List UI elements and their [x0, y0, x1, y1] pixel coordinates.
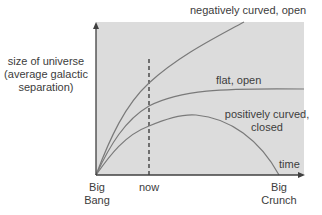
y-axis-label: size of universe (average galactic separ… [0, 55, 92, 94]
y-axis-label-line-1: size of universe [0, 55, 92, 68]
tick-big-crunch-line-2: Crunch [258, 194, 300, 207]
x-axis-label-time: time [279, 158, 300, 171]
tick-big-crunch: Big Crunch [258, 181, 300, 207]
tick-big-bang-line-1: Big [82, 181, 112, 194]
tick-now: now [134, 181, 164, 194]
y-axis-label-line-3: separation) [0, 81, 92, 94]
positively-curved-closed-label: positively curved, closed [222, 108, 312, 134]
positively-curved-line-1: positively curved, [222, 108, 312, 121]
tick-big-bang: Big Bang [82, 181, 112, 207]
plot-background [96, 22, 304, 175]
positively-curved-line-2: closed [222, 121, 312, 134]
negatively-curved-open-label: negatively curved, open [190, 4, 306, 17]
tick-big-bang-line-2: Bang [82, 194, 112, 207]
flat-open-label: flat, open [216, 74, 261, 87]
y-axis-label-line-2: (average galactic [0, 68, 92, 81]
tick-big-crunch-line-1: Big [258, 181, 300, 194]
